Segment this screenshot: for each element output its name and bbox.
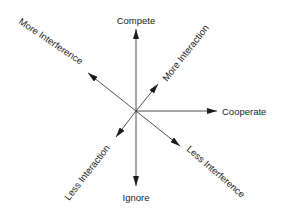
label-less-interference: Less Interference [185,143,248,199]
label-more-interference: More Interference [17,16,85,67]
label-compete: Compete [117,15,156,26]
more-interaction-arrow [136,84,158,111]
more-interference-arrow [88,73,136,111]
label-cooperate: Cooperate [222,106,266,117]
label-less-interaction: Less Interaction [62,143,112,203]
interaction-diagram: Compete Ignore Cooperate More Interferen… [0,0,285,216]
less-interaction-arrow [116,111,136,137]
less-interference-arrow [136,111,180,146]
label-ignore: Ignore [123,192,150,203]
label-more-interaction: More Interaction [160,22,211,83]
